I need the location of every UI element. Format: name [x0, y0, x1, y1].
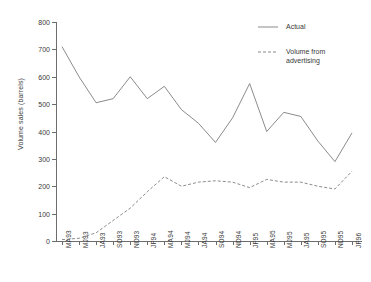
x-tick-mark — [250, 241, 251, 245]
y-tick-label: 200 — [38, 183, 50, 190]
x-tick-mark — [233, 241, 234, 245]
y-tick-label: 400 — [38, 128, 50, 135]
x-tick-mark — [164, 241, 165, 245]
x-tick-mark — [147, 241, 148, 245]
legend-item: Actual — [258, 22, 368, 31]
y-tick-label: 700 — [38, 46, 50, 53]
y-axis-title: Volume sales (barrels) — [14, 4, 28, 224]
legend-item: Volume from advertising — [258, 47, 368, 65]
legend-label: Actual — [286, 22, 305, 31]
y-tick-label: 300 — [38, 155, 50, 162]
x-tick-mark — [352, 241, 353, 245]
x-tick-mark — [318, 241, 319, 245]
x-tick-mark — [130, 241, 131, 245]
x-tick-mark — [62, 241, 63, 245]
y-tick-label: 800 — [38, 19, 50, 26]
x-tick-mark — [335, 241, 336, 245]
y-tick-label: 0 — [46, 238, 50, 245]
x-tick-mark — [301, 241, 302, 245]
chart-container: Volume sales (barrels) 01002003004005006… — [0, 0, 371, 282]
x-tick-mark — [284, 241, 285, 245]
series-line-volume-from-advertising — [62, 171, 352, 239]
x-tick-mark — [79, 241, 80, 245]
y-tick-mark — [52, 241, 56, 242]
x-tick-mark — [113, 241, 114, 245]
chart-legend: ActualVolume from advertising — [258, 22, 368, 81]
legend-line-swatch-icon — [258, 48, 278, 56]
legend-line-swatch-icon — [258, 23, 278, 31]
x-tick-mark — [181, 241, 182, 245]
legend-label: Volume from advertising — [286, 47, 325, 65]
x-tick-mark — [96, 241, 97, 245]
y-tick-label: 600 — [38, 73, 50, 80]
x-tick-mark — [216, 241, 217, 245]
x-tick-mark — [198, 241, 199, 245]
y-tick-label: 500 — [38, 101, 50, 108]
x-tick-mark — [267, 241, 268, 245]
y-tick-label: 100 — [38, 210, 50, 217]
